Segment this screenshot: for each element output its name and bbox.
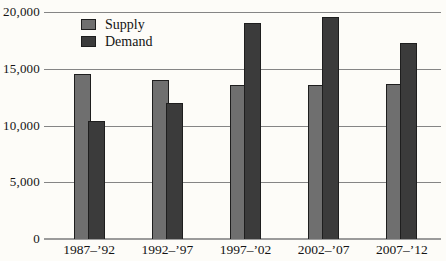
x-axis-tick-label: 1992–’97 — [128, 242, 206, 258]
x-axis-tick-label: 2002–’07 — [285, 242, 363, 258]
legend-swatch-demand — [81, 36, 96, 47]
legend-item-supply: Supply — [81, 17, 152, 32]
supply-demand-bar-chart: 05,00010,00015,00020,000 Supply Demand 1… — [0, 0, 446, 261]
bar-demand-2 — [166, 103, 183, 239]
bar-group-4 — [285, 12, 363, 239]
plot-area: Supply Demand — [50, 12, 441, 239]
x-axis-tick-label: 1997–’02 — [206, 242, 284, 258]
legend-item-demand: Demand — [81, 34, 152, 49]
legend-label-supply: Supply — [105, 17, 145, 32]
x-axis-tick-label: 2007–’12 — [363, 242, 441, 258]
bar-group-3 — [206, 12, 284, 239]
y-axis-tick-label: 15,000 — [3, 61, 40, 77]
x-axis: 1987–’921992–’971997–’022002–’072007–’12 — [50, 242, 441, 258]
y-axis: 05,00010,00015,00020,000 — [0, 0, 42, 261]
legend-label-demand: Demand — [105, 34, 152, 49]
y-axis-tick-label: 0 — [33, 231, 40, 247]
bar-demand-5 — [400, 43, 417, 239]
y-axis-tick-label: 10,000 — [3, 118, 40, 134]
y-axis-tick-label: 5,000 — [10, 174, 40, 190]
y-axis-tick-label: 20,000 — [3, 4, 40, 20]
bar-demand-4 — [322, 17, 339, 239]
bar-group-5 — [363, 12, 441, 239]
bar-demand-3 — [244, 23, 261, 239]
legend: Supply Demand — [81, 17, 152, 49]
bar-demand-1 — [88, 121, 105, 239]
x-axis-tick-label: 1987–’92 — [50, 242, 128, 258]
legend-swatch-supply — [81, 19, 96, 30]
